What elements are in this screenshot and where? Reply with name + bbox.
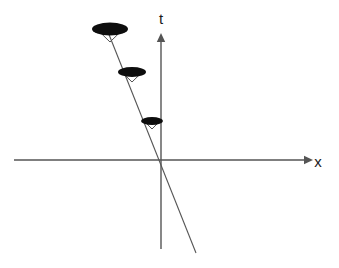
object-middle-canopy — [118, 67, 146, 77]
object-top-canopy — [92, 23, 128, 36]
diagram-background — [0, 0, 339, 268]
x-axis-label: x — [314, 153, 322, 170]
spacetime-diagram: x t — [0, 0, 339, 268]
diagram-canvas: x t — [0, 0, 339, 268]
object-bottom-canopy — [141, 117, 163, 125]
